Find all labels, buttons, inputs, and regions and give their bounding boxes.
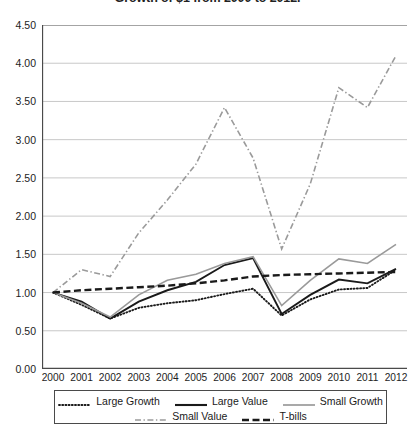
y-tick-label: 1.50: [16, 248, 36, 260]
legend-item-t-bills[interactable]: T-bills: [241, 410, 306, 422]
legend-swatch: [58, 396, 92, 406]
x-tick-label: 2005: [185, 372, 208, 383]
x-tick-label: 2006: [213, 372, 236, 383]
legend-swatch: [134, 411, 168, 421]
legend-line-swatch: [282, 400, 316, 410]
plot-area: [42, 25, 407, 369]
legend-label: Large Growth: [96, 395, 160, 407]
legend-label: Large Value: [212, 395, 268, 407]
y-tick-label: 1.00: [16, 287, 36, 299]
x-tick-label: 2000: [42, 372, 65, 383]
x-tick-label: 2009: [299, 372, 322, 383]
plot-svg: [42, 25, 407, 369]
growth-of-dollar-line-chart: Growth of $1 from 2000 to 2012. 0.000.50…: [0, 0, 415, 427]
x-tick-label: 2002: [99, 372, 122, 383]
legend-line-swatch: [241, 415, 275, 425]
series-line-large-growth: [53, 270, 396, 319]
y-tick-label: 3.00: [16, 134, 36, 146]
chart-legend: Large GrowthLarge ValueSmall Growth Smal…: [54, 390, 387, 424]
legend-swatch: [174, 396, 208, 406]
x-tick-label: 2011: [356, 372, 378, 383]
x-tick-label: 2012: [385, 372, 408, 383]
legend-item-large-value[interactable]: Large Value: [174, 395, 268, 407]
legend-line-swatch: [134, 415, 168, 425]
legend-line-swatch: [174, 400, 208, 410]
legend-label: Small Growth: [320, 395, 383, 407]
y-tick-label: 0.50: [16, 325, 36, 337]
y-tick-label: 3.50: [16, 95, 36, 107]
legend-label: T-bills: [279, 410, 306, 422]
x-axis-tick-labels: 2000200120022003200420052006200720082009…: [0, 372, 415, 388]
y-axis-tick-labels: 0.000.501.001.502.002.503.003.504.004.50: [0, 0, 40, 400]
x-tick-label: 2007: [242, 372, 265, 383]
chart-title: Growth of $1 from 2000 to 2012.: [0, 0, 415, 5]
legend-item-large-growth[interactable]: Large Growth: [58, 395, 160, 407]
legend-row-1: Large GrowthLarge ValueSmall Growth: [55, 393, 386, 408]
legend-swatch: [241, 411, 275, 421]
legend-line-swatch: [58, 400, 92, 410]
y-tick-label: 2.00: [16, 210, 36, 222]
legend-label: Small Value: [172, 410, 227, 422]
legend-item-small-growth[interactable]: Small Growth: [282, 395, 383, 407]
series-line-small-value: [53, 56, 396, 293]
x-tick-label: 2003: [127, 372, 150, 383]
x-tick-label: 2004: [156, 372, 179, 383]
x-tick-label: 2001: [70, 372, 93, 383]
x-tick-label: 2010: [327, 372, 350, 383]
y-tick-label: 4.50: [16, 19, 36, 31]
y-tick-label: 2.50: [16, 172, 36, 184]
x-tick-label: 2008: [270, 372, 293, 383]
legend-swatch: [282, 396, 316, 406]
legend-item-small-value[interactable]: Small Value: [134, 410, 227, 422]
legend-row-2: Small ValueT-bills: [55, 408, 386, 423]
y-tick-label: 4.00: [16, 57, 36, 69]
